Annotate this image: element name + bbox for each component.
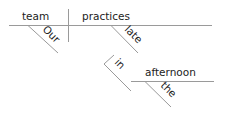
object-word: afternoon [145, 66, 196, 78]
subject-modifier-word: Our [41, 23, 64, 46]
adverb-word: late [123, 23, 146, 46]
subject-word: team [22, 10, 49, 22]
verb-word: practices [82, 10, 130, 22]
sentence-diagram: team practices Our late in afternoon the [0, 0, 240, 113]
preposition-word: in [113, 56, 128, 71]
object-modifier-word: the [159, 79, 180, 100]
